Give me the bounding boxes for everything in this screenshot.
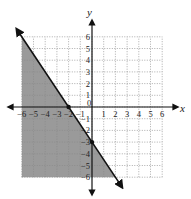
svg-text:−6: −6 [81, 172, 90, 182]
svg-text:5: 5 [148, 109, 152, 119]
svg-text:5: 5 [86, 44, 90, 54]
svg-text:−5: −5 [29, 109, 38, 119]
svg-text:−3: −3 [52, 109, 61, 119]
svg-text:−5: −5 [81, 161, 90, 171]
svg-text:−4: −4 [41, 109, 51, 119]
y-axis-label: y [86, 6, 92, 18]
svg-text:6: 6 [86, 32, 90, 42]
svg-text:2: 2 [86, 79, 90, 89]
x-axis-label: x [179, 102, 185, 114]
svg-text:1: 1 [86, 90, 90, 100]
svg-text:2: 2 [113, 109, 117, 119]
svg-text:3: 3 [125, 109, 129, 119]
svg-text:6: 6 [160, 109, 164, 119]
line-point [90, 140, 94, 144]
svg-text:4: 4 [137, 109, 142, 119]
svg-text:1: 1 [102, 109, 106, 119]
svg-text:3: 3 [86, 67, 90, 77]
line-point [66, 105, 70, 109]
svg-text:−6: −6 [17, 109, 26, 119]
inequality-graph: −6−5−4−3−2−10123456654321−1−2−3−4−5−6 x … [0, 0, 191, 199]
svg-text:−3: −3 [81, 137, 90, 147]
svg-text:−4: −4 [81, 149, 91, 159]
svg-text:−1: −1 [81, 114, 90, 124]
